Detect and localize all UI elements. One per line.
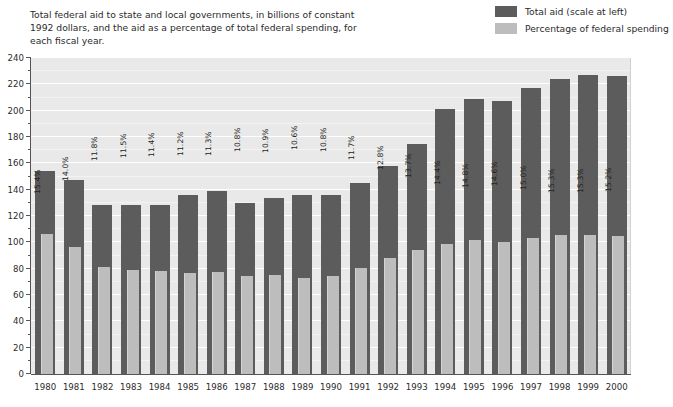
bar-percentage-of-federal-spending[interactable] (41, 234, 53, 374)
bars-container: 15.4%14.0%11.8%11.5%11.4%11.2%11.3%10.8%… (31, 58, 631, 374)
x-axis-tick-label: 1985 (177, 382, 199, 392)
bar-percentage-of-federal-spending[interactable] (69, 247, 81, 374)
bar-percentage-label: 11.5% (119, 134, 128, 159)
y-axis-tick-label: 0 (19, 369, 24, 379)
y-axis-tick-label: 60 (13, 290, 24, 300)
x-axis-tick-label: 1983 (120, 382, 142, 392)
bar-percentage-label: 15.0% (519, 165, 528, 190)
x-axis-tick-label: 1987 (234, 382, 256, 392)
bar-percentage-of-federal-spending[interactable] (241, 276, 253, 374)
x-axis-tick-label: 1991 (349, 382, 371, 392)
bar-group[interactable]: 14.8% (464, 58, 484, 374)
bar-percentage-of-federal-spending[interactable] (498, 242, 510, 374)
bar-percentage-of-federal-spending[interactable] (155, 271, 167, 374)
bar-group[interactable]: 15.3% (550, 58, 570, 374)
x-axis-labels: 1980198119821983198419851986198719881989… (31, 378, 631, 400)
bar-percentage-label: 10.6% (290, 125, 299, 150)
bar-group[interactable]: 10.6% (292, 58, 312, 374)
bar-group[interactable]: 11.7% (350, 58, 370, 374)
legend-item-total-aid: Total aid (scale at left) (495, 6, 673, 17)
bar-percentage-of-federal-spending[interactable] (327, 276, 339, 374)
x-axis-tick-label: 1982 (91, 382, 113, 392)
bar-percentage-of-federal-spending[interactable] (384, 258, 396, 374)
bar-percentage-label: 14.0% (61, 156, 70, 181)
bar-group[interactable]: 15.3% (578, 58, 598, 374)
bar-percentage-label: 11.7% (347, 135, 356, 160)
bar-percentage-label: 15.4% (33, 169, 42, 194)
chart-caption: Total federal aid to state and local gov… (30, 8, 360, 48)
y-axis-tick-label: 20 (13, 343, 24, 353)
y-axis: 020406080100120140160180200220240 (0, 58, 31, 374)
x-axis-tick-label: 1999 (577, 382, 599, 392)
bar-percentage-of-federal-spending[interactable] (184, 273, 196, 375)
y-axis-tick-label: 120 (8, 211, 24, 221)
bar-percentage-label: 14.6% (490, 162, 499, 187)
y-axis-tick-label: 100 (8, 237, 24, 247)
bar-group[interactable]: 12.8% (378, 58, 398, 374)
bar-group[interactable]: 11.8% (92, 58, 112, 374)
bar-percentage-of-federal-spending[interactable] (584, 235, 596, 374)
bar-percentage-label: 12.8% (376, 145, 385, 170)
bar-group[interactable]: 14.4% (435, 58, 455, 374)
bar-group[interactable]: 11.4% (150, 58, 170, 374)
bar-percentage-label: 11.3% (204, 132, 213, 157)
bar-percentage-of-federal-spending[interactable] (555, 235, 567, 374)
legend-item-percentage: Percentage of federal spending (495, 23, 673, 34)
bar-percentage-of-federal-spending[interactable] (127, 270, 139, 374)
bar-group[interactable]: 11.3% (207, 58, 227, 374)
y-axis-tick-label: 80 (13, 264, 24, 274)
x-axis-tick-label: 1992 (377, 382, 399, 392)
bar-percentage-label: 11.8% (90, 136, 99, 161)
chart-legend: Total aid (scale at left) Percentage of … (495, 6, 673, 40)
bar-group[interactable]: 15.2% (607, 58, 627, 374)
bar-percentage-of-federal-spending[interactable] (269, 275, 281, 374)
bar-percentage-of-federal-spending[interactable] (412, 250, 424, 374)
legend-label-percentage: Percentage of federal spending (525, 23, 669, 34)
x-axis-tick-label: 2000 (606, 382, 628, 392)
bar-percentage-label: 11.4% (147, 133, 156, 158)
bar-percentage-label: 11.2% (176, 131, 185, 156)
bar-group[interactable]: 13.7% (407, 58, 427, 374)
bar-group[interactable]: 14.6% (492, 58, 512, 374)
bar-percentage-of-federal-spending[interactable] (441, 244, 453, 375)
x-axis-tick-label: 1984 (149, 382, 171, 392)
bar-group[interactable]: 14.0% (64, 58, 84, 374)
bar-percentage-of-federal-spending[interactable] (298, 278, 310, 374)
y-axis-tick-label: 220 (8, 79, 24, 89)
bar-group[interactable]: 11.5% (121, 58, 141, 374)
y-axis-tick-label: 200 (8, 106, 24, 116)
x-axis-tick-label: 1996 (491, 382, 513, 392)
bar-percentage-label: 15.2% (604, 167, 613, 192)
y-axis-tick-label: 160 (8, 158, 24, 168)
x-axis-tick-label: 1986 (206, 382, 228, 392)
x-axis-tick-label: 1981 (63, 382, 85, 392)
bar-group[interactable]: 15.4% (35, 58, 55, 374)
bar-percentage-of-federal-spending[interactable] (612, 236, 624, 374)
x-axis-tick-label: 1994 (434, 382, 456, 392)
x-axis-tick-label: 1997 (520, 382, 542, 392)
plot-area: 15.4%14.0%11.8%11.5%11.4%11.2%11.3%10.8%… (31, 58, 631, 374)
bar-percentage-of-federal-spending[interactable] (527, 238, 539, 374)
x-axis-line (31, 374, 631, 375)
x-axis-tick-label: 1990 (320, 382, 342, 392)
bar-percentage-of-federal-spending[interactable] (355, 268, 367, 374)
plot-right-edge (630, 58, 631, 374)
x-axis-tick-label: 1993 (406, 382, 428, 392)
chart-header: Total federal aid to state and local gov… (0, 0, 638, 52)
y-axis-tick-label: 180 (8, 132, 24, 142)
bar-group[interactable]: 10.9% (264, 58, 284, 374)
bar-group[interactable]: 10.8% (235, 58, 255, 374)
bar-group[interactable]: 15.0% (521, 58, 541, 374)
bar-percentage-label: 15.3% (547, 168, 556, 193)
legend-label-total-aid: Total aid (scale at left) (525, 6, 627, 17)
y-axis-tick-label: 140 (8, 185, 24, 195)
bar-group[interactable]: 10.8% (321, 58, 341, 374)
y-axis-tick-label: 40 (13, 316, 24, 326)
x-axis-tick-label: 1988 (263, 382, 285, 392)
bar-percentage-label: 10.8% (319, 127, 328, 152)
bar-percentage-of-federal-spending[interactable] (469, 240, 481, 374)
legend-swatch-total-aid (495, 6, 517, 17)
bar-group[interactable]: 11.2% (178, 58, 198, 374)
bar-percentage-of-federal-spending[interactable] (212, 272, 224, 374)
bar-percentage-of-federal-spending[interactable] (98, 267, 110, 374)
